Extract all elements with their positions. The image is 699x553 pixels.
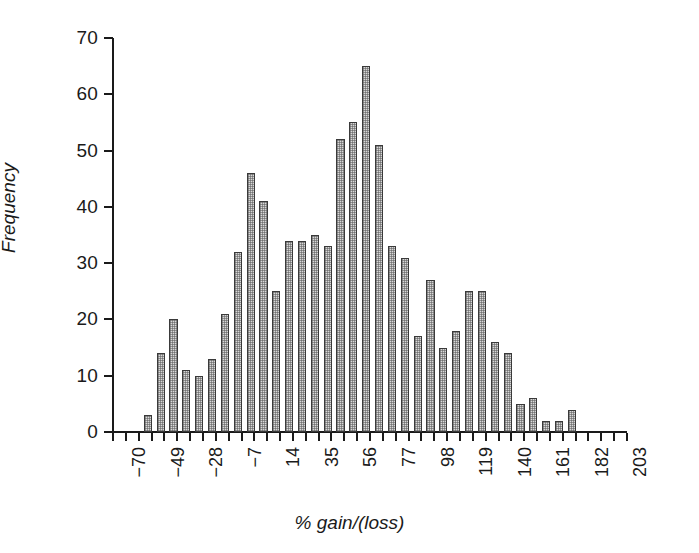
x-axis-tick [575,433,577,441]
x-axis-tick [523,433,525,441]
histogram-bar [259,201,267,432]
x-axis-tick [613,433,615,441]
histogram-bar [157,353,165,432]
histogram-bar [401,258,409,432]
x-axis-tick-label: 56 [360,447,381,467]
x-axis-tick [176,433,178,441]
x-axis-tick-label: 161 [553,447,574,477]
x-axis-tick [356,433,358,441]
histogram-bar [452,331,460,432]
x-axis-tick [292,433,294,441]
histogram-bar [375,145,383,432]
x-axis-tick [318,433,320,441]
histogram-bar [169,319,177,432]
histogram-bar [221,314,229,432]
histogram-bar [349,122,357,432]
histogram-bar [465,291,473,432]
histogram-bar [478,291,486,432]
x-axis-tick [369,433,371,441]
x-axis-tick [536,433,538,441]
x-axis-tick [459,433,461,441]
y-axis-tick-label: 60 [76,83,98,105]
y-axis-tick-label: 30 [76,252,98,274]
x-axis-tick [433,433,435,441]
histogram-bar [542,421,550,432]
x-axis-tick [202,433,204,441]
x-axis-tick-label: 98 [438,447,459,467]
y-axis-tick-label: 50 [76,140,98,162]
histogram-bar [362,66,370,432]
histogram-bar [311,235,319,432]
x-axis-tick-label: 77 [399,447,420,467]
x-axis-tick [215,433,217,441]
histogram-bar [144,415,152,432]
histogram-bar [388,246,396,432]
x-axis-tick [395,433,397,441]
x-axis-tick [112,433,114,441]
x-axis-tick [163,433,165,441]
histogram-figure: Frequency 010203040506070 −70−49−28−7143… [0,0,699,553]
x-axis-tick [408,433,410,441]
histogram-bar [195,376,203,432]
histogram-bar [247,173,255,432]
x-axis-tick [446,433,448,441]
x-axis-tick [228,433,230,441]
x-axis-tick-label: −49 [168,447,189,478]
x-axis-title: % gain/(loss) [0,512,699,534]
histogram-bars [112,38,627,432]
x-axis-tick [498,433,500,441]
histogram-bar [324,246,332,432]
x-axis-tick [485,433,487,441]
x-axis-tick-label: −28 [206,447,227,478]
histogram-bar [336,139,344,432]
histogram-bar [555,421,563,432]
x-axis-tick [305,433,307,441]
x-axis-tick [420,433,422,441]
histogram-bar [491,342,499,432]
x-axis-tick [138,433,140,441]
histogram-bar [272,291,280,432]
histogram-bar [439,348,447,432]
histogram-bar [285,241,293,432]
x-axis-tick-label: −70 [129,447,150,478]
x-axis-tick-label: 35 [322,447,343,467]
x-axis-tick [562,433,564,441]
x-axis-tick [343,433,345,441]
histogram-bar [234,252,242,432]
y-axis-tick-label: 70 [76,27,98,49]
y-axis-tick-label: 10 [76,365,98,387]
histogram-bar [208,359,216,432]
x-axis-tick [472,433,474,441]
y-axis-tick-labels: 010203040506070 [46,0,98,553]
histogram-bar [182,370,190,432]
x-axis-tick-label: 140 [515,447,536,477]
x-axis-tick [382,433,384,441]
y-axis-tick-label: 20 [76,308,98,330]
y-axis-title: Frequency [0,163,20,253]
histogram-bar [516,404,524,432]
histogram-bar [426,280,434,432]
x-axis-tick [549,433,551,441]
x-axis-tick-label: 203 [630,447,651,477]
histogram-bar [414,336,422,432]
x-axis-tick [125,433,127,441]
x-axis-tick [600,433,602,441]
x-axis-tick [510,433,512,441]
histogram-bar [504,353,512,432]
x-axis-tick [587,433,589,441]
x-axis-tick [241,433,243,441]
x-axis-tick [151,433,153,441]
x-axis-tick [266,433,268,441]
x-axis-tick [279,433,281,441]
histogram-bar [568,410,576,433]
y-axis-tick-label: 0 [87,421,98,443]
y-axis-tick-label: 40 [76,196,98,218]
x-axis-tick [330,433,332,441]
histogram-bar [529,398,537,432]
x-axis-tick-label: 119 [476,447,497,476]
x-axis-tick [253,433,255,441]
x-axis-tick-label: 182 [592,447,613,477]
histogram-bar [298,241,306,432]
x-axis-tick-label: 14 [283,447,304,467]
x-axis-tick [189,433,191,441]
